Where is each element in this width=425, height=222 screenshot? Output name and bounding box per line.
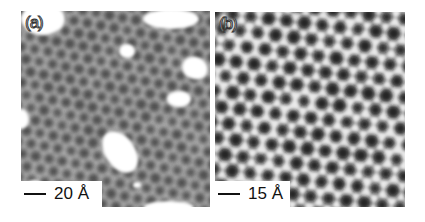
lattice-hole [219, 148, 232, 161]
lattice-hole [198, 28, 206, 36]
lattice-hole [74, 28, 84, 38]
lattice-bright-site [103, 63, 110, 70]
lattice-bright-site [305, 202, 314, 207]
lattice-bright-site [332, 121, 342, 131]
lattice-hole [107, 119, 114, 126]
lattice-bright-site [27, 148, 33, 154]
lattice-bright-site [181, 164, 188, 171]
lattice-hole [298, 174, 310, 186]
lattice-hole [169, 118, 176, 125]
lattice-hole [26, 67, 36, 77]
lattice-hole [150, 173, 160, 183]
lattice-bright-site [111, 175, 118, 182]
lattice-hole [182, 156, 190, 164]
lattice-hole [114, 36, 123, 45]
lattice-hole [49, 131, 58, 140]
lattice-hole [80, 114, 88, 122]
lattice-bright-site [273, 167, 282, 176]
lattice-bright-site [291, 23, 299, 31]
lattice-bright-site [133, 132, 139, 138]
lattice-bright-site [326, 105, 334, 113]
lattice-bright-site [143, 70, 150, 77]
lattice-hole [31, 45, 39, 53]
lattice-bright-site [392, 166, 400, 174]
lattice-hole [284, 62, 296, 74]
lattice-bright-site [42, 135, 49, 142]
lattice-hole [238, 152, 248, 162]
lattice-hole [333, 178, 345, 190]
lattice-bright-site [75, 109, 82, 116]
scale-bar-b: 15 Å [215, 181, 290, 207]
lattice-bright-site [56, 138, 62, 144]
lattice-hole [39, 70, 49, 80]
lattice-hole [263, 170, 273, 180]
lattice-bright-site [313, 62, 321, 70]
lattice-bright-site [95, 74, 101, 80]
lattice-bright-site [326, 27, 334, 35]
lattice-hole [181, 49, 189, 57]
lattice-hole [80, 148, 90, 158]
lattice-hole [61, 98, 70, 107]
stm-image-b: (b) 15 Å [215, 12, 405, 207]
lattice-hole [338, 69, 349, 80]
lattice-bright-site [31, 54, 36, 59]
lattice-hole [168, 47, 175, 54]
lattice-bright-site [377, 54, 386, 63]
lattice-bright-site [73, 46, 78, 51]
lattice-bright-site [135, 81, 142, 88]
lattice-bright-site [190, 47, 195, 52]
lattice-hole [202, 11, 210, 14]
lattice-hole [177, 107, 186, 116]
lattice-hole [93, 81, 100, 88]
lattice-bright-site [127, 91, 133, 97]
lattice-hole [281, 15, 292, 26]
lattice-hole [242, 121, 252, 131]
lattice-bright-site [193, 103, 199, 109]
lattice-bright-site [233, 114, 243, 124]
lattice-hole [58, 122, 65, 129]
lattice-hole [352, 181, 363, 192]
lattice-hole [245, 168, 255, 178]
lattice-bright-site [58, 130, 64, 136]
lattice-bright-site [108, 40, 114, 46]
lattice-hole [106, 189, 116, 199]
lattice-hole [387, 27, 400, 40]
lattice-bright-site [118, 66, 123, 71]
lattice-hole [163, 69, 172, 78]
lattice-hole [278, 125, 288, 135]
lattice-bright-site [21, 143, 27, 149]
lattice-bright-site [387, 196, 396, 205]
lattice-bright-site [215, 45, 224, 54]
lattice-hole [330, 51, 343, 64]
lattice-bright-site [21, 166, 23, 172]
lattice-bright-site [306, 46, 314, 54]
lattice-bright-site [388, 40, 396, 48]
lattice-bright-site [176, 45, 182, 51]
lattice-hole [259, 44, 271, 56]
lattice-hole [199, 170, 209, 180]
lattice-bright-site [64, 56, 70, 62]
lattice-bright-site [184, 78, 190, 84]
lattice-bright-site [56, 67, 61, 72]
lattice-bright-site [376, 143, 384, 151]
lattice-hole [320, 67, 331, 78]
lattice-bright-site [92, 133, 98, 139]
lattice-bright-site [344, 18, 355, 29]
lattice-bright-site [400, 161, 405, 171]
lattice-bright-site [159, 137, 165, 143]
lattice-hole [176, 71, 185, 80]
lattice-hole [23, 92, 30, 99]
lattice-hole [381, 169, 391, 179]
lattice-bright-site [122, 78, 128, 84]
lattice-bright-site [215, 28, 217, 37]
lattice-hole [353, 103, 362, 112]
lattice-bright-site [374, 12, 382, 15]
lattice-bright-site [101, 43, 107, 49]
scale-bar-label-b: 15 Å [248, 184, 283, 204]
lattice-hole [116, 179, 125, 188]
lattice-hole [283, 140, 296, 153]
lattice-hole [382, 12, 391, 21]
stm-image-a: (a) 20 Å [21, 11, 210, 207]
lattice-bright-site [180, 172, 186, 178]
lattice-hole [101, 69, 110, 78]
